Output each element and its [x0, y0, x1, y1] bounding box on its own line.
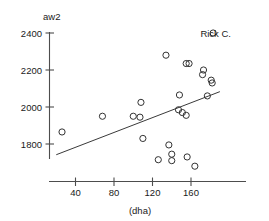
data-point	[163, 52, 169, 58]
data-point	[138, 99, 144, 105]
data-point	[176, 92, 182, 98]
data-point	[137, 114, 143, 120]
chart-canvas: 2400 2200 2000 1800 aw2 40 80 120 160 (d…	[0, 0, 269, 221]
x-tick-label-120: 120	[145, 187, 161, 198]
x-axis-title: (dha)	[129, 205, 151, 216]
data-point	[169, 151, 175, 157]
data-point	[192, 163, 198, 169]
y-tick-label-2200: 2200	[21, 65, 42, 76]
y-axis-title: aw2	[43, 11, 60, 22]
y-tick-label-2000: 2000	[21, 102, 42, 113]
data-point	[166, 142, 172, 148]
data-point	[99, 113, 105, 119]
y-tick-label-1800: 1800	[21, 139, 42, 150]
data-point	[59, 129, 65, 135]
data-point	[130, 113, 136, 119]
y-tick-label-2400: 2400	[21, 28, 42, 39]
annotation-rick-c: Rick C.	[200, 28, 231, 39]
data-point	[169, 158, 175, 164]
x-tick-label-80: 80	[109, 187, 120, 198]
scatter-plot-figure: 2400 2200 2000 1800 aw2 40 80 120 160 (d…	[0, 0, 269, 221]
scatter-markers	[59, 30, 216, 169]
data-point	[184, 154, 190, 160]
data-point	[140, 135, 146, 141]
x-tick-label-160: 160	[183, 187, 199, 198]
data-point	[155, 157, 161, 163]
x-tick-label-40: 40	[70, 187, 81, 198]
